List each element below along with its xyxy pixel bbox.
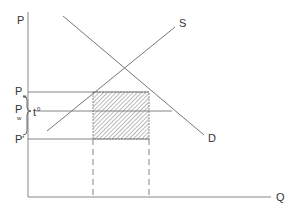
shaded-tariff-region bbox=[93, 92, 149, 139]
price-label-po: P bbox=[15, 85, 22, 97]
x-axis-label: Q bbox=[276, 191, 285, 203]
price-label-pw-sub: w bbox=[16, 115, 22, 121]
tariff-brace bbox=[23, 96, 31, 135]
supply-demand-diagram: P Q S D P o P w P * t 0 bbox=[0, 0, 295, 207]
price-label-pstar-sub: * bbox=[22, 135, 25, 141]
price-label-pw: P bbox=[15, 103, 22, 115]
y-axis-label: P bbox=[17, 14, 24, 26]
tariff-label: t bbox=[33, 106, 36, 118]
supply-label: S bbox=[179, 17, 186, 29]
demand-label: D bbox=[208, 132, 216, 144]
